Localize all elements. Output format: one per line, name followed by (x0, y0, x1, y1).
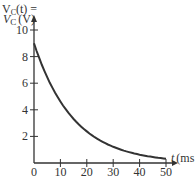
y-tick-label: 8 (22, 50, 28, 64)
x-tick-label: 50 (160, 165, 172, 179)
data-curve (34, 43, 166, 158)
axes: 01020304050246810 (16, 15, 178, 179)
x-tick-label: 20 (81, 165, 93, 179)
x-tick-label: 30 (107, 165, 119, 179)
x-tick-label: 40 (134, 165, 146, 179)
y-axis-label: VC(V) (3, 12, 35, 27)
x-tick-label: 10 (54, 165, 66, 179)
chart: 01020304050246810 VC(t) = VC(V) t(ms (0, 0, 195, 179)
y-tick-label: 6 (22, 76, 28, 90)
y-tick-label: 2 (22, 129, 28, 143)
y-tick-label: 4 (22, 103, 28, 117)
x-tick-label: 0 (31, 165, 37, 179)
